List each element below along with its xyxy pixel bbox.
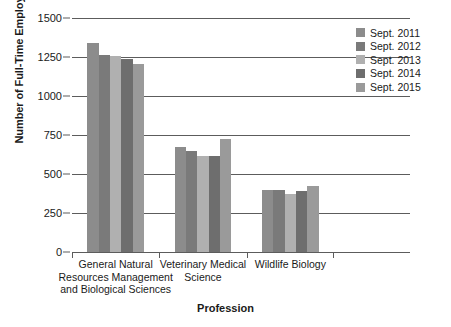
category-label-line: Science bbox=[143, 271, 263, 284]
legend-swatch-icon bbox=[356, 42, 365, 51]
y-tick-mark bbox=[63, 96, 70, 97]
y-tick-mark bbox=[63, 18, 70, 19]
bar-groups bbox=[72, 18, 334, 252]
legend-swatch-icon bbox=[356, 69, 365, 78]
bar bbox=[175, 147, 186, 252]
y-tick-label: 750 bbox=[44, 130, 62, 141]
category-label-line: and Biological Sciences bbox=[46, 283, 186, 296]
bar-group bbox=[87, 18, 144, 252]
bar bbox=[133, 64, 144, 252]
plot-area: 0250500750100012501500 bbox=[72, 18, 334, 252]
bar bbox=[121, 59, 132, 252]
y-tick-mark bbox=[63, 213, 70, 214]
bar bbox=[209, 156, 220, 252]
legend-swatch-icon bbox=[356, 28, 365, 37]
bar-group bbox=[175, 18, 232, 252]
bar bbox=[110, 56, 121, 252]
category-label: Wildlife Biology bbox=[235, 258, 345, 271]
y-tick-label: 1500 bbox=[38, 13, 62, 24]
legend-label: Sept. 2012 bbox=[370, 41, 421, 52]
legend-swatch-icon bbox=[356, 55, 365, 64]
legend-item[interactable]: Sept. 2014 bbox=[356, 67, 448, 81]
legend-item[interactable]: Sept. 2013 bbox=[356, 53, 448, 67]
bar bbox=[307, 186, 318, 252]
y-tick-mark bbox=[63, 57, 70, 58]
legend: Sept. 2011Sept. 2012Sept. 2013Sept. 2014… bbox=[356, 26, 448, 94]
bar-group bbox=[262, 18, 319, 252]
y-tick-mark bbox=[63, 174, 70, 175]
legend-item[interactable]: Sept. 2011 bbox=[356, 26, 448, 40]
bar bbox=[99, 55, 110, 252]
bar bbox=[262, 190, 273, 252]
bar bbox=[87, 43, 98, 252]
legend-item[interactable]: Sept. 2015 bbox=[356, 80, 448, 94]
legend-label: Sept. 2014 bbox=[370, 68, 421, 79]
y-axis-title: Number of Full-Time Employees bbox=[13, 0, 25, 166]
bar-chart: Number of Full-Time Employees 0250500750… bbox=[0, 0, 451, 327]
bar bbox=[197, 156, 208, 252]
y-tick-label: 500 bbox=[44, 169, 62, 180]
y-tick-label: 0 bbox=[56, 247, 62, 258]
y-tick-mark bbox=[63, 135, 70, 136]
x-axis-title: Profession bbox=[0, 302, 451, 314]
legend-label: Sept. 2013 bbox=[370, 55, 421, 66]
y-tick-label: 1000 bbox=[38, 91, 62, 102]
bar bbox=[220, 139, 231, 252]
category-label-line: Wildlife Biology bbox=[235, 258, 345, 271]
bar bbox=[186, 151, 197, 252]
y-tick-label: 250 bbox=[44, 208, 62, 219]
x-axis-line bbox=[72, 252, 410, 253]
bar bbox=[296, 191, 307, 252]
bar bbox=[273, 190, 284, 252]
legend-label: Sept. 2011 bbox=[370, 28, 420, 39]
legend-label: Sept. 2015 bbox=[370, 82, 421, 93]
legend-item[interactable]: Sept. 2012 bbox=[356, 40, 448, 54]
y-tick-mark bbox=[63, 252, 70, 253]
y-tick-label: 1250 bbox=[38, 52, 62, 63]
legend-swatch-icon bbox=[356, 83, 365, 92]
category-labels: General NaturalResources Managementand B… bbox=[62, 258, 422, 304]
bar bbox=[285, 194, 296, 252]
